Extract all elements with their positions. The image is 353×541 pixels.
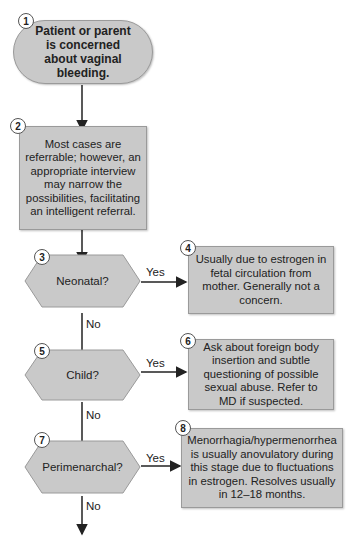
- process-node-2: Most cases are referrable; however, an a…: [19, 126, 147, 230]
- decision-perimenarchal: Perimenarchal?: [24, 440, 141, 494]
- yes-label: Yes: [146, 266, 165, 278]
- no-label: No: [86, 318, 101, 330]
- decision-label: Perimenarchal?: [42, 461, 123, 473]
- process-node-6: Ask about foreign body insertion and sub…: [188, 339, 334, 410]
- step-number-7: 7: [34, 432, 50, 448]
- no-label: No: [86, 409, 101, 421]
- step-number-8: 8: [175, 420, 191, 436]
- decision-label: Neonatal?: [56, 275, 108, 287]
- step-number-3: 3: [34, 249, 50, 265]
- step-number-5: 5: [34, 343, 50, 359]
- step-number-4: 4: [180, 240, 196, 256]
- process-node-8: Menorrhagia/hypermenorrhea is usually an…: [181, 428, 343, 508]
- yes-label: Yes: [146, 357, 165, 369]
- step-number-2: 2: [10, 118, 26, 134]
- yes-label: Yes: [146, 452, 165, 464]
- decision-label: Child?: [66, 369, 99, 381]
- step-number-1: 1: [18, 13, 34, 29]
- step-number-6: 6: [180, 333, 196, 349]
- no-label: No: [86, 500, 101, 512]
- start-node: Patient or parent is concerned about vag…: [13, 20, 153, 84]
- process-node-4: Usually due to estrogen in fetal circula…: [188, 246, 334, 314]
